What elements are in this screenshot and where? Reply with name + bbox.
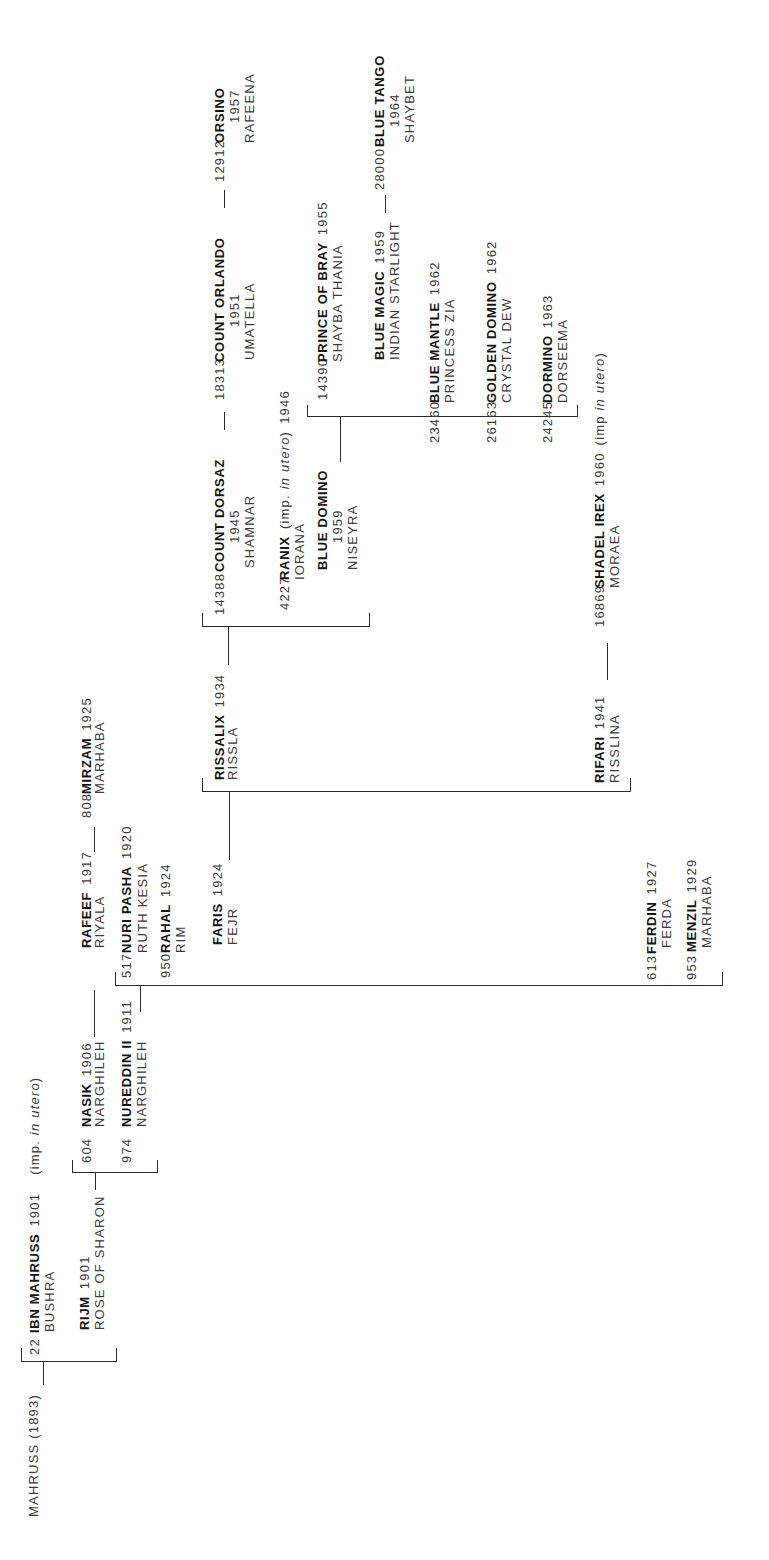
dam-name: ROSE OF SHARON (93, 1195, 106, 1330)
horse-name: IBN MAHRUSS (27, 1234, 42, 1333)
horse-name: DORMINO (540, 335, 555, 403)
foaling-year: 1959 (372, 230, 387, 264)
horse-row: NUREDDIN II1911 (120, 1000, 133, 1127)
dam-name: RISSLA (226, 727, 239, 780)
connector-rissalix (228, 627, 229, 665)
connector-rafeef-mirzam (94, 827, 95, 852)
dam-name: IORANA (293, 523, 306, 580)
horse-name: COUNT ORLANDO (213, 237, 226, 362)
dam-name: PRINCESS ZIA (443, 298, 456, 403)
import-note: (imp. in utero) (27, 1077, 42, 1175)
horse-row: DORMINO1963 (541, 295, 554, 403)
note-suffix: ) (592, 352, 607, 358)
horse-name: NURI PASHA (119, 866, 134, 953)
dam-name: NISEYRA (346, 505, 359, 570)
foaling-year: 1927 (644, 861, 659, 895)
connector-orlando-orsino (224, 190, 225, 208)
registration-number: 16869 (593, 585, 606, 627)
connector-faris (229, 792, 230, 860)
dam-name: FEJR (226, 908, 239, 945)
horse-row: FARIS1924 (211, 862, 224, 945)
foaling-year: 1924 (158, 863, 173, 897)
horse-row: RIJM1901 (78, 1255, 91, 1330)
note-prefix: (imp. (277, 489, 292, 529)
connector-magic-tango (385, 195, 386, 213)
dam-name: CRYSTAL DEW (500, 298, 513, 403)
note-italic: in utero (277, 436, 292, 489)
foaling-year: 1964 (388, 93, 401, 127)
registration-number: 953 (685, 955, 698, 980)
horse-name: GOLDEN DOMINO (484, 281, 499, 403)
horse-name: SHADEL IREX (592, 493, 607, 588)
bracket-faris-offspring (202, 778, 631, 792)
registration-number: 22 (28, 1338, 41, 1355)
foaling-year: 1911 (119, 1000, 134, 1033)
foaling-year: 1946 (277, 390, 292, 424)
import-note: (imp in utero) (592, 352, 607, 445)
registration-number: 604 (80, 1138, 93, 1163)
registration-number: 808 (80, 793, 93, 818)
horse-row: BLUE MAGIC1959 (373, 230, 386, 360)
horse-row: PRINCE OF BRAY1955 (316, 201, 329, 362)
foaling-year: 1917 (79, 851, 94, 885)
horse-name: BLUE DOMINO (316, 470, 329, 570)
dam-name: UMATELLA (243, 283, 256, 360)
note-italic: in utero (27, 1082, 42, 1135)
registration-number: 974 (120, 1138, 133, 1163)
connector-rifari-shadel (607, 643, 608, 680)
foaling-year: 1962 (484, 241, 499, 275)
connector-rijm (95, 1173, 96, 1190)
connector-dorsaz-orlando (224, 412, 225, 430)
dam-name: SHAYBA THANIA (331, 244, 344, 362)
registration-number: 14390 (316, 358, 329, 400)
foaling-year: 1945 (228, 509, 241, 543)
dam-name: MARHABA (93, 721, 106, 794)
foaling-year: 1960 (592, 452, 607, 486)
bracket-rissalix-offspring (202, 613, 370, 627)
connector-root (43, 1362, 44, 1385)
horse-name: RANIX (277, 536, 292, 580)
horse-row: GOLDEN DOMINO1962 (485, 241, 498, 404)
root-sire: MAHRUSS (1893) (27, 1394, 40, 1517)
dam-name: RUTH KESIA (136, 863, 149, 953)
registration-number: 517 (120, 953, 133, 978)
foaling-year: 1955 (315, 201, 330, 235)
foaling-year: 1929 (684, 859, 699, 893)
dam-name: RISSLINA (608, 714, 621, 783)
horse-name: BLUE MANTLE (427, 302, 442, 403)
note-suffix: ) (277, 431, 292, 437)
registration-number: 12912 (213, 140, 226, 182)
horse-name: COUNT DORSAZ (213, 459, 226, 572)
foaling-year: 1934 (212, 674, 227, 708)
connector-blue-domino (340, 417, 341, 462)
dam-name: MORAEA (608, 524, 621, 588)
registration-number: 23460 (428, 401, 441, 443)
foaling-year: 1962 (427, 261, 442, 295)
horse-row: RANIX(imp. in utero)1946 (278, 390, 291, 580)
horse-row: BLUE MANTLE1962 (428, 261, 441, 403)
registration-number: 18313 (213, 358, 226, 400)
horse-name: MENZIL (684, 899, 699, 952)
horse-name: RIJM (77, 1296, 92, 1330)
horse-name: NUREDDIN II (119, 1040, 134, 1127)
foaling-year: 1957 (228, 89, 241, 123)
horse-row: MENZIL1929 (685, 859, 698, 952)
horse-row: RIFARI1941 (593, 695, 606, 783)
horse-name: FARIS (210, 903, 225, 945)
note-prefix: (imp. (27, 1135, 42, 1175)
registration-number: 26163 (485, 401, 498, 443)
registration-number: 24245 (541, 401, 554, 443)
dam-name: RIM (174, 926, 187, 953)
horse-name: BLUE MAGIC (372, 271, 387, 360)
horse-row: NURI PASHA1920 (120, 825, 133, 953)
horse-row: IBN MAHRUSS1901(imp. in utero) (28, 1077, 41, 1333)
horse-row: FERDIN1927 (645, 861, 658, 954)
foaling-year: 1963 (540, 295, 555, 329)
horse-name: PRINCE OF BRAY (315, 242, 330, 362)
registration-number: 28000 (373, 148, 386, 190)
foaling-year: 1924 (210, 862, 225, 896)
foaling-year: 1901 (27, 1193, 42, 1227)
foaling-year: 1951 (228, 293, 241, 327)
horse-name: FERDIN (644, 901, 659, 954)
registration-number: 950 (159, 953, 172, 978)
